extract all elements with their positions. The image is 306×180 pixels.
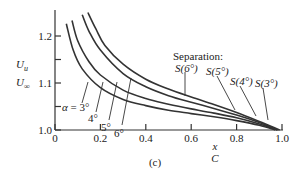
x-tick-label: 0.6 [184, 132, 198, 144]
y-ticks: 1.01.11.2 [38, 30, 61, 136]
svg-text:Uu: Uu [16, 58, 28, 73]
y-tick-label: 1.1 [38, 77, 52, 89]
leader-sep-4 [240, 86, 256, 116]
alpha-4-label: 4° [88, 112, 98, 124]
separation-label-5: S(5°) [206, 65, 229, 78]
svg-text:x: x [212, 140, 218, 152]
separation-label-3: S(3°) [255, 77, 278, 90]
x-tick-label: 0 [52, 132, 58, 144]
x-tick-label: 0.2 [94, 132, 108, 144]
y-tick-label: 1.0 [38, 124, 52, 136]
alpha-6-label: 6° [114, 127, 124, 139]
y-axis-label: Uu U∞ [16, 58, 30, 91]
series-curves [66, 13, 279, 131]
x-ticks: 00.20.40.60.81.0 [52, 124, 289, 144]
y-tick-label: 1.2 [38, 30, 52, 42]
separation-header: Separation: [173, 50, 223, 62]
chart: 00.20.40.60.81.0 1.01.11.2 α = 3° 4° 5° … [0, 0, 306, 180]
panel-label: (c) [149, 156, 162, 169]
alpha-5-label: 5° [101, 121, 111, 133]
separation-label-4: S(4°) [230, 75, 253, 88]
x-axis-label: x C [211, 140, 219, 164]
leader-alpha-3 [82, 82, 88, 103]
alpha-3-label: α = 3° [62, 101, 89, 113]
svg-text:C: C [211, 152, 219, 164]
leader-sep-3 [263, 88, 268, 120]
svg-text:U∞: U∞ [16, 76, 30, 91]
leader-alpha-5 [109, 82, 117, 120]
x-tick-label: 0.8 [230, 132, 244, 144]
separation-label-6: S(6°) [175, 62, 198, 75]
x-tick-label: 1.0 [275, 132, 289, 144]
x-tick-label: 0.4 [139, 132, 153, 144]
